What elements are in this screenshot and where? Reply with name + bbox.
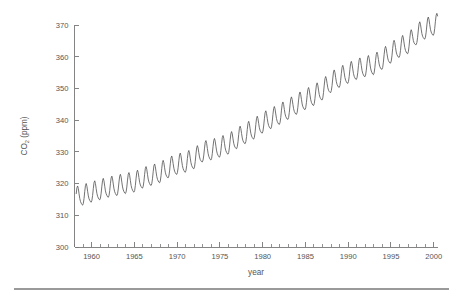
x-tick-label: 1970	[169, 252, 186, 261]
y-tick-label: 370	[56, 21, 69, 30]
x-tick-label: 1995	[383, 252, 400, 261]
x-tick-label: 1990	[340, 252, 357, 261]
y-axis-ticks: 300310320330340350360370	[56, 21, 79, 252]
x-axis-title: year	[248, 268, 264, 277]
x-tick-label: 1980	[254, 252, 271, 261]
y-tick-label: 300	[56, 243, 69, 252]
y-tick-label: 320	[56, 179, 69, 188]
series-group	[76, 13, 437, 205]
y-axis-title: CO2 (ppm)	[20, 116, 30, 155]
y-axis-title-prefix: CO	[20, 143, 29, 155]
x-tick-label: 2000	[425, 252, 442, 261]
x-axis-ticks: 196019651970197519801985199019952000	[75, 242, 443, 261]
series-line-mauna-loa-co2	[76, 13, 437, 205]
y-axis-title-text: CO2 (ppm)	[20, 116, 30, 155]
y-axis-title-suffix: (ppm)	[20, 116, 29, 140]
y-tick-label: 310	[56, 211, 69, 220]
x-tick-label: 1975	[211, 252, 228, 261]
co2-line-chart: 300310320330340350360370 196019651970197…	[0, 0, 459, 302]
y-tick-label: 360	[56, 53, 69, 62]
figure-container: 300310320330340350360370 196019651970197…	[0, 0, 459, 302]
x-tick-label: 1965	[126, 252, 143, 261]
y-tick-label: 330	[56, 148, 69, 157]
y-tick-label: 340	[56, 116, 69, 125]
y-tick-label: 350	[56, 84, 69, 93]
x-tick-label: 1985	[297, 252, 314, 261]
x-tick-label: 1960	[83, 252, 100, 261]
